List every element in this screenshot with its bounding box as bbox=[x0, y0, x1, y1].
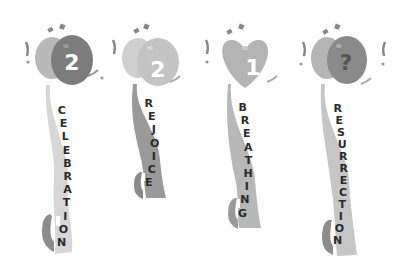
balloon-number: 2 bbox=[143, 57, 173, 82]
ribbon-word: CELEBRATION bbox=[57, 104, 66, 249]
balloon-banner-breathing: 1 BREATHING bbox=[195, 0, 300, 275]
ribbon-letter: C bbox=[58, 104, 66, 117]
ribbon-letter: C bbox=[148, 163, 156, 176]
balloon-ribbon-illustration bbox=[295, 0, 412, 275]
ribbon-word: REJOICE bbox=[144, 97, 153, 189]
ribbon-letter: E bbox=[243, 127, 251, 140]
ribbon-letter: A bbox=[63, 183, 72, 196]
ribbon-letter: I bbox=[152, 150, 156, 163]
ribbon-letter: N bbox=[57, 236, 66, 249]
ribbon-letter: O bbox=[150, 137, 159, 150]
ribbon-letter: R bbox=[241, 114, 249, 127]
ribbon-letter: T bbox=[245, 154, 253, 167]
balloon-number: 2 bbox=[57, 50, 87, 75]
ribbon-letter: T bbox=[63, 196, 71, 209]
ribbon-letter: I bbox=[245, 180, 249, 193]
balloon-question-mark: ? bbox=[331, 50, 361, 75]
ribbon-word: RESURRECTION bbox=[333, 103, 342, 247]
ribbon-letter: R bbox=[63, 170, 71, 183]
ribbon-letter: A bbox=[244, 141, 253, 154]
ribbon-letter: G bbox=[238, 207, 247, 220]
ribbon-letter: B bbox=[238, 101, 246, 114]
ribbon-letter: O bbox=[59, 223, 68, 236]
ribbon-letter: B bbox=[63, 157, 71, 170]
ribbon-letter: E bbox=[148, 110, 156, 123]
ribbon-letter: E bbox=[60, 117, 68, 130]
balloon-banner-resurrection: ? RESURRECTION bbox=[295, 0, 412, 275]
ribbon-letter: H bbox=[244, 167, 253, 180]
ribbon-letter: R bbox=[144, 97, 152, 110]
ribbon-letter: N bbox=[333, 235, 342, 247]
ribbon-word: BREATHING bbox=[238, 101, 247, 220]
ribbon-letter: I bbox=[63, 210, 67, 223]
balloon-number: 1 bbox=[238, 55, 268, 80]
balloon-banner-celebration: 2 CELEBRATION bbox=[0, 0, 103, 275]
ribbon-letter: E bbox=[145, 176, 153, 189]
ribbon-letter: J bbox=[152, 123, 156, 136]
balloon-banner-rejoice: 2 REJOICE bbox=[100, 0, 200, 275]
ribbon-letter: L bbox=[62, 130, 69, 143]
balloon-ribbon-illustration bbox=[0, 0, 103, 275]
ribbon-letter: N bbox=[240, 193, 249, 206]
ribbon-letter: E bbox=[63, 144, 71, 157]
